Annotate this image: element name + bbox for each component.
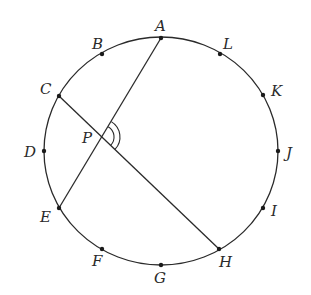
label-f: F	[91, 252, 103, 270]
point-f	[100, 247, 104, 251]
label-d: D	[23, 143, 36, 161]
point-e	[57, 206, 61, 210]
point-a	[159, 36, 163, 40]
point-l	[218, 52, 222, 56]
label-j: J	[283, 144, 293, 162]
label-l: L	[222, 35, 233, 53]
chord-ch	[59, 96, 219, 249]
point-d	[42, 149, 46, 153]
point-j	[276, 149, 280, 153]
label-h: H	[218, 253, 233, 271]
point-k	[261, 93, 265, 97]
label-e: E	[39, 208, 51, 226]
point-i	[261, 206, 265, 210]
label-p: P	[81, 129, 93, 147]
circle-diagram: ABCDEFGHIJKLP	[0, 0, 311, 295]
circle	[44, 37, 278, 265]
label-b: B	[91, 35, 103, 53]
label-g: G	[154, 269, 166, 287]
angle-arc-inner	[108, 127, 114, 146]
labels-layer: ABCDEFGHIJKLP	[23, 17, 293, 287]
point-h	[217, 247, 221, 251]
label-k: K	[270, 82, 283, 100]
point-c	[57, 94, 61, 98]
label-c: C	[40, 80, 52, 98]
point-g	[159, 263, 163, 267]
angle-arc-outer	[111, 122, 120, 150]
label-a: A	[153, 17, 166, 35]
chord-ae	[59, 38, 161, 208]
label-i: I	[270, 202, 278, 220]
